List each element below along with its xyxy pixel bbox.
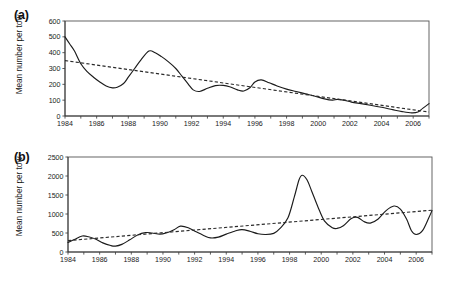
x-tick-1992: 1992 [187, 256, 203, 264]
y-tick-labels-a: 0100200300400500600 [49, 18, 65, 121]
chart-panel-b: (b) Mean number per tow 0500100015002000… [0, 142, 466, 284]
plot-area-b: 05001000150020002500 1984198619881990199… [0, 142, 466, 284]
x-tick-1986: 1986 [92, 256, 108, 264]
y-tick-300: 300 [49, 65, 61, 73]
plot-frame-b [68, 157, 432, 252]
y-tick-2500: 2500 [48, 154, 64, 162]
y-tick-1500: 1500 [48, 192, 64, 200]
x-tick-1984: 1984 [57, 120, 73, 128]
figure-container: (a) Mean number per tow 0100200300400500… [0, 0, 466, 284]
plot-area-a: 0100200300400500600 19841986198819901992… [0, 0, 466, 142]
y-tick-200: 200 [49, 81, 61, 89]
x-tick-1998: 1998 [282, 256, 298, 264]
x-tick-1998: 1998 [279, 120, 295, 128]
x-tick-2006: 2006 [408, 256, 424, 264]
x-tick-1986: 1986 [89, 120, 105, 128]
y-tick-500: 500 [52, 230, 64, 238]
x-tick-2000: 2000 [310, 120, 326, 128]
series-line-solid-a [65, 37, 429, 113]
series-line-trend-b [68, 210, 432, 240]
y-tick-0: 0 [60, 249, 64, 257]
x-tick-2006: 2006 [405, 120, 421, 128]
x-tick-1990: 1990 [152, 120, 168, 128]
x-tick-1990: 1990 [155, 256, 171, 264]
y-tick-600: 600 [49, 18, 61, 26]
y-tick-500: 500 [49, 33, 61, 41]
x-tick-2002: 2002 [345, 256, 361, 264]
y-tick-1000: 1000 [48, 211, 64, 219]
y-tick-2000: 2000 [48, 173, 64, 181]
x-tick-2002: 2002 [342, 120, 358, 128]
x-tick-1984: 1984 [60, 256, 76, 264]
x-tick-1992: 1992 [184, 120, 200, 128]
chart-panel-a: (a) Mean number per tow 0100200300400500… [0, 0, 466, 142]
y-tick-100: 100 [49, 97, 61, 105]
x-tick-1996: 1996 [247, 120, 263, 128]
y-tick-400: 400 [49, 49, 61, 57]
x-tick-1988: 1988 [120, 120, 136, 128]
y-tick-0: 0 [57, 113, 61, 121]
x-tick-1996: 1996 [250, 256, 266, 264]
x-tick-labels-a: 1984198619881990199219941996199820002002… [57, 116, 429, 128]
x-tick-labels-b: 1984198619881990199219941996199820002002… [60, 252, 432, 264]
x-tick-1994: 1994 [215, 120, 231, 128]
x-tick-1994: 1994 [218, 256, 234, 264]
x-tick-2004: 2004 [374, 120, 390, 128]
x-tick-2004: 2004 [377, 256, 393, 264]
y-tick-labels-b: 05001000150020002500 [48, 154, 68, 257]
x-tick-2000: 2000 [313, 256, 329, 264]
x-tick-1988: 1988 [123, 256, 139, 264]
